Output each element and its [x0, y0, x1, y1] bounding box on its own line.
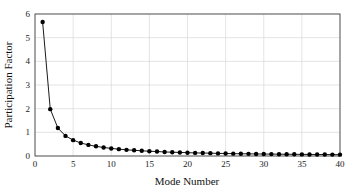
series-markers — [40, 20, 342, 157]
data-point — [193, 151, 197, 155]
data-point — [277, 152, 281, 156]
data-point — [239, 152, 243, 156]
data-point — [132, 148, 136, 152]
x-axis-ticks: 0510152025303540 — [33, 159, 345, 169]
data-point — [231, 151, 235, 155]
data-point — [315, 152, 319, 156]
y-tick-label: 1 — [26, 127, 31, 137]
data-point — [185, 150, 189, 154]
data-point — [40, 20, 44, 24]
x-axis-label: Mode Number — [155, 175, 220, 187]
y-axis-label: Participation Factor — [2, 41, 14, 128]
data-point — [307, 152, 311, 156]
data-point — [124, 148, 128, 152]
data-point — [79, 141, 83, 145]
data-point — [262, 152, 266, 156]
data-point — [246, 152, 250, 156]
data-point — [162, 150, 166, 154]
data-point — [323, 152, 327, 156]
data-point — [48, 107, 52, 111]
x-tick-label: 10 — [107, 159, 117, 169]
data-point — [330, 152, 334, 156]
data-point — [178, 150, 182, 154]
grid-lines — [35, 14, 340, 156]
data-point — [94, 144, 98, 148]
y-tick-label: 5 — [26, 33, 31, 43]
x-tick-label: 20 — [183, 159, 193, 169]
data-point — [63, 134, 67, 138]
data-point — [254, 152, 258, 156]
x-tick-label: 0 — [33, 159, 38, 169]
data-point — [216, 151, 220, 155]
y-tick-label: 6 — [26, 9, 31, 19]
x-tick-label: 5 — [71, 159, 76, 169]
y-axis-ticks: 0123456 — [26, 9, 31, 161]
x-tick-label: 15 — [145, 159, 155, 169]
data-point — [56, 126, 60, 130]
y-tick-label: 3 — [26, 80, 31, 90]
data-point — [117, 147, 121, 151]
data-point — [71, 138, 75, 142]
data-point — [86, 143, 90, 147]
data-point — [109, 146, 113, 150]
y-tick-label: 4 — [26, 56, 31, 66]
data-point — [292, 152, 296, 156]
y-tick-label: 2 — [26, 104, 31, 114]
data-point — [170, 150, 174, 154]
data-point — [201, 151, 205, 155]
participation-factor-chart: 0123456 0510152025303540 Mode Number Par… — [0, 0, 357, 191]
data-point — [300, 152, 304, 156]
series-line — [43, 22, 340, 155]
data-point — [338, 152, 342, 156]
y-tick-label: 0 — [26, 151, 31, 161]
data-point — [223, 151, 227, 155]
data-point — [101, 145, 105, 149]
data-point — [140, 149, 144, 153]
data-point — [147, 149, 151, 153]
data-point — [284, 152, 288, 156]
x-tick-label: 30 — [259, 159, 269, 169]
data-point — [208, 151, 212, 155]
x-tick-label: 40 — [336, 159, 346, 169]
x-tick-label: 35 — [297, 159, 307, 169]
data-point — [269, 152, 273, 156]
x-tick-label: 25 — [221, 159, 231, 169]
data-point — [155, 149, 159, 153]
